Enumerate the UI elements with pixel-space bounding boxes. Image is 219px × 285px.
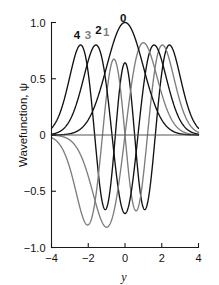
x-tick-label-4: 4 <box>195 252 201 264</box>
wavefunction-chart-figure: −1.0−0.500.51.0 −4−2024 01234 y Wavefunc… <box>0 0 219 285</box>
curve-label-n3: 3 <box>85 29 91 41</box>
plot-svg: −1.0−0.500.51.0 −4−2024 01234 y <box>0 0 219 285</box>
y-axis-title: Wavefunction, ψ <box>17 45 29 205</box>
y-tick-label-2: 0 <box>39 129 45 141</box>
curve-label-n1: 1 <box>103 26 110 38</box>
x-tick-label-0: −4 <box>45 252 58 264</box>
x-tick-label-1: −2 <box>82 252 95 264</box>
x-tick-label-3: 2 <box>159 252 165 264</box>
x-axis-title: y <box>120 270 127 284</box>
curve-label-n0: 0 <box>120 12 126 24</box>
y-tick-label-3: 0.5 <box>30 73 45 85</box>
y-tick-label-0: −1.0 <box>24 242 46 254</box>
x-tick-label-2: 0 <box>122 252 128 264</box>
curve-label-n4: 4 <box>74 29 81 41</box>
curve-label-n2: 2 <box>95 24 101 36</box>
y-tick-label-4: 1.0 <box>30 17 45 29</box>
